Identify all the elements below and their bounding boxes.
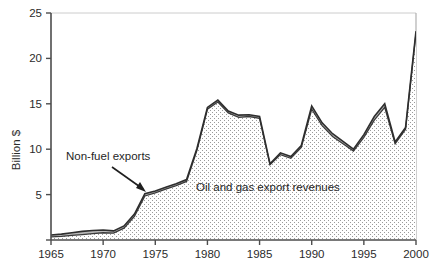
y-tick-label: 10 xyxy=(29,143,42,155)
x-tick-label: 1965 xyxy=(38,248,64,260)
x-tick-label: 1985 xyxy=(247,248,273,260)
y-tick-label: 25 xyxy=(29,7,42,19)
area-chart: 510152025 196519701975198019851990199520… xyxy=(0,0,437,267)
non-fuel-exports-annotation-label: Non-fuel exports xyxy=(66,150,151,162)
oil-gas-area xyxy=(51,33,416,240)
x-tick-label: 1970 xyxy=(90,248,116,260)
x-tick-label: 1975 xyxy=(142,248,168,260)
x-tick-label: 2000 xyxy=(403,248,429,260)
x-tick-label: 1995 xyxy=(351,248,377,260)
y-tick-label: 20 xyxy=(29,52,42,64)
non-fuel-exports-annotation-arrow xyxy=(112,167,146,192)
chart-container: 510152025 196519701975198019851990199520… xyxy=(0,0,437,267)
y-axis-tick-labels: 510152025 xyxy=(29,7,42,201)
oil-gas-annotation-label: Oil and gas export revenues xyxy=(196,181,340,193)
y-tick-label: 15 xyxy=(29,98,42,110)
y-axis-title: Billion $ xyxy=(10,129,22,170)
x-tick-label: 1980 xyxy=(195,248,221,260)
x-axis-tick-labels: 19651970197519801985199019952000 xyxy=(38,248,429,260)
y-tick-label: 5 xyxy=(36,189,42,201)
x-tick-label: 1990 xyxy=(299,248,325,260)
